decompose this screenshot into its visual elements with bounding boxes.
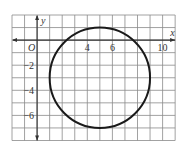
x-tick-label: 10 bbox=[158, 42, 168, 53]
y-tick-label: −6 bbox=[23, 110, 34, 121]
x-axis-arrow-right-icon bbox=[170, 38, 175, 42]
x-axis-arrow-left-icon bbox=[12, 38, 17, 42]
tick-labels: xyO4610−2−4−6 bbox=[23, 15, 175, 121]
y-axis-arrow-up-icon bbox=[35, 15, 39, 20]
coordinate-plane: xyO4610−2−4−6 bbox=[0, 0, 184, 148]
y-axis-label: y bbox=[40, 15, 46, 26]
y-tick-label: −4 bbox=[23, 85, 34, 96]
y-axis-arrow-down-icon bbox=[35, 136, 39, 141]
x-axis-label: x bbox=[169, 27, 175, 38]
x-tick-label: 6 bbox=[110, 42, 115, 53]
y-tick-label: −2 bbox=[23, 60, 34, 71]
origin-label: O bbox=[28, 42, 35, 53]
x-tick-label: 4 bbox=[85, 42, 90, 53]
